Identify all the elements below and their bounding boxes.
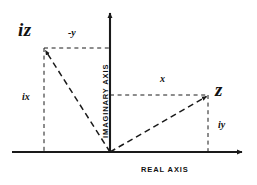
imaginary-axis-label: IMAGINARY AXIS [102,64,110,138]
component-label-neg-y: -y [68,28,76,38]
component-label-iy: iy [218,120,225,130]
component-label-ix: ix [22,92,30,102]
real-axis-label: REAL AXIS [141,166,189,174]
point-label-iz: iz [18,20,32,39]
complex-plane-diagram: iz z -y ix x iy IMAGINARY AXIS REAL AXIS [0,0,257,185]
vector-z [110,97,207,153]
component-label-x: x [160,74,165,84]
point-label-z: z [215,80,223,99]
